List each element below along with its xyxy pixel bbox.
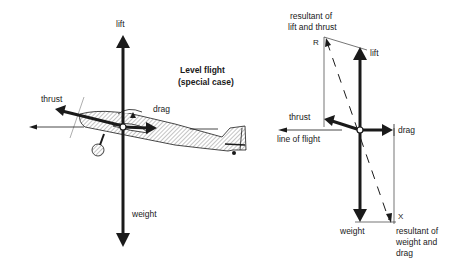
point-r-label: R [313,38,319,48]
thrust-label: thrust [41,94,62,104]
weight-arrow-icon [116,233,130,247]
resultant-lift-thrust-label-2: lift and thrust [288,22,337,32]
line-of-flight-label: line of flight [277,134,320,144]
thrust-arrow-icon [55,105,66,116]
weight-label: weight [132,209,157,219]
right-force-vectors [278,37,396,224]
point-x-label: X [398,212,403,222]
resultant-weight-drag-label: resultant of [396,226,438,236]
weight-label-right: weight [340,226,365,236]
drag-label: drag [153,104,170,114]
resultant-weight-drag-label-3: drag [396,248,413,258]
diagram-title: Level flight [180,65,225,75]
diagram-subtitle: (special case) [178,77,234,87]
lift-arrow-icon [116,35,130,48]
resultant-weight-drag-label-2: weight and [396,237,437,247]
lift-label-right: lift [370,48,379,58]
drag-label-right: drag [398,125,415,135]
resultant-lift-thrust-label: resultant of [290,11,332,21]
thrust-label-right: thrust [289,112,310,122]
lift-label: lift [116,19,125,29]
